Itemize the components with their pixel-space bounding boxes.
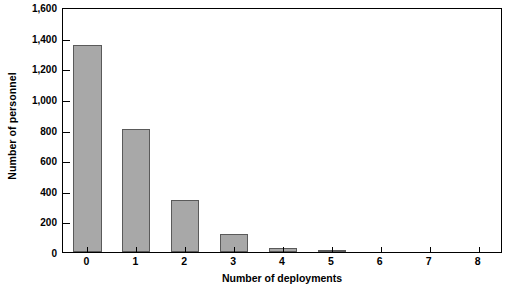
plot-area [62, 8, 502, 253]
x-axis-tick-mark [234, 247, 235, 252]
x-axis-tick-label: 3 [230, 255, 236, 267]
x-axis-tick-mark [283, 247, 284, 252]
bar [73, 45, 101, 252]
y-axis-tick-label: 0 [51, 248, 57, 259]
y-axis-tick-label: 200 [40, 217, 57, 228]
x-axis-tick-mark [430, 247, 431, 252]
y-axis-tick-label: 1,200 [32, 64, 57, 75]
y-axis-tick-mark [63, 132, 70, 133]
y-axis-title-text: Number of personnel [6, 72, 18, 180]
x-axis-tick-label: 4 [279, 255, 285, 267]
y-axis-tick-label: 1,400 [32, 33, 57, 44]
x-axis-tick-label: 2 [181, 255, 187, 267]
x-axis-tick-label: 7 [426, 255, 432, 267]
x-axis-tick-mark [185, 247, 186, 252]
x-axis-tick-mark [381, 247, 382, 252]
y-axis-tick-label: 1,000 [32, 94, 57, 105]
x-axis-tick-label: 1 [132, 255, 138, 267]
y-axis-tick-labels: 02004006008001,0001,2001,4001,600 [22, 8, 60, 253]
bar [171, 200, 199, 252]
y-axis-tick-mark [63, 70, 70, 71]
x-axis-tick-labels: 012345678 [62, 255, 502, 273]
y-axis-tick-mark [63, 40, 70, 41]
x-axis-tick-mark [87, 247, 88, 252]
x-axis-tick-label: 8 [475, 255, 481, 267]
y-axis-tick-label: 800 [40, 125, 57, 136]
y-axis-tick-label: 1,600 [32, 3, 57, 14]
x-axis-tick-label: 5 [328, 255, 334, 267]
x-axis-tick-mark [136, 247, 137, 252]
y-axis-tick-mark [63, 101, 70, 102]
x-axis-tick-mark [332, 247, 333, 252]
x-axis-tick-mark [479, 247, 480, 252]
x-axis-title: Number of deployments [62, 272, 502, 284]
x-axis-tick-label: 0 [84, 255, 90, 267]
y-axis-tick-label: 400 [40, 186, 57, 197]
y-axis-tick-mark [63, 193, 70, 194]
y-axis-tick-mark [63, 223, 70, 224]
y-axis-tick-label: 600 [40, 156, 57, 167]
bar [122, 129, 150, 252]
y-axis-tick-mark [63, 162, 70, 163]
plot-inner [63, 9, 501, 252]
x-axis-tick-label: 6 [377, 255, 383, 267]
y-axis-title: Number of personnel [0, 0, 24, 252]
bar-chart-figure: Number of personnel 02004006008001,0001,… [0, 0, 530, 299]
